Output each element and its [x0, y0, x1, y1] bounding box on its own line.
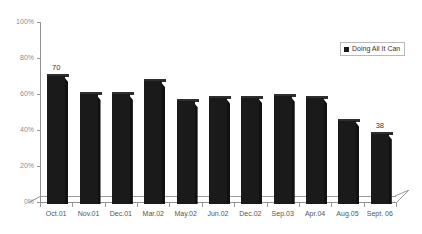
x-axis-tick-mark: [202, 203, 203, 207]
x-axis-tick-mark: [105, 203, 106, 207]
x-axis-tick-mark: [364, 203, 365, 207]
bar[interactable]: [112, 94, 130, 204]
y-axis-tick-label: 20%: [8, 162, 34, 169]
legend-square-marker-icon: [344, 47, 349, 52]
bar[interactable]: [80, 94, 98, 204]
bar[interactable]: [338, 121, 356, 204]
x-axis-tick-mark: [267, 203, 268, 207]
bar[interactable]: [47, 76, 65, 204]
y-axis-line: [40, 22, 41, 203]
x-axis-tick-mark: [331, 203, 332, 207]
y-axis-tick-label: 60%: [8, 90, 34, 97]
y-axis-tick-label: 80%: [8, 54, 34, 61]
bar-value-label: 38: [366, 121, 394, 130]
bar[interactable]: [177, 101, 195, 204]
x-axis-tick-mark: [169, 203, 170, 207]
chart-floor-right-edge: [395, 190, 409, 203]
x-axis-tick-mark: [396, 203, 397, 207]
x-axis-category-label: Mar.02: [135, 210, 171, 217]
y-axis-tick-mark: [37, 166, 41, 167]
x-axis-tick-mark: [72, 203, 73, 207]
x-axis-tick-mark: [137, 203, 138, 207]
y-axis-tick-mark: [37, 22, 41, 23]
x-axis-category-label: Aug.05: [329, 210, 365, 217]
bar[interactable]: [144, 81, 162, 204]
x-axis-category-label: Dec.01: [103, 210, 139, 217]
y-axis-tick-label: 40%: [8, 126, 34, 133]
x-axis-category-label: Jun.02: [200, 210, 236, 217]
x-axis-category-label: Apr.04: [297, 210, 333, 217]
bar[interactable]: [371, 134, 389, 204]
y-axis-tick-label: 0%: [8, 198, 34, 205]
y-axis-tick-mark: [37, 58, 41, 59]
x-axis-category-label: Dec.02: [232, 210, 268, 217]
x-axis-category-label: Oct.01: [38, 210, 74, 217]
x-axis-category-label: May.02: [167, 210, 203, 217]
x-axis-tick-mark: [234, 203, 235, 207]
x-axis-category-label: Sept. 06: [362, 210, 398, 217]
x-axis-category-label: Sep.03: [265, 210, 301, 217]
bar[interactable]: [209, 98, 227, 204]
bar[interactable]: [241, 98, 259, 204]
bar-value-label: 70: [42, 63, 70, 72]
chart-legend[interactable]: Doing All It Can: [340, 42, 405, 56]
y-axis-tick-mark: [37, 94, 41, 95]
y-axis-tick-mark: [37, 130, 41, 131]
x-axis-category-label: Nov.01: [70, 210, 106, 217]
bar-chart: 100%80%60%40%20%0% 7038 Oct.01Nov.01Dec.…: [0, 0, 422, 234]
bar[interactable]: [306, 98, 324, 204]
legend-entry-label: Doing All It Can: [352, 45, 400, 53]
x-axis-tick-mark: [40, 203, 41, 207]
bar[interactable]: [274, 96, 292, 204]
x-axis-tick-mark: [299, 203, 300, 207]
y-axis-tick-label: 100%: [8, 18, 34, 25]
